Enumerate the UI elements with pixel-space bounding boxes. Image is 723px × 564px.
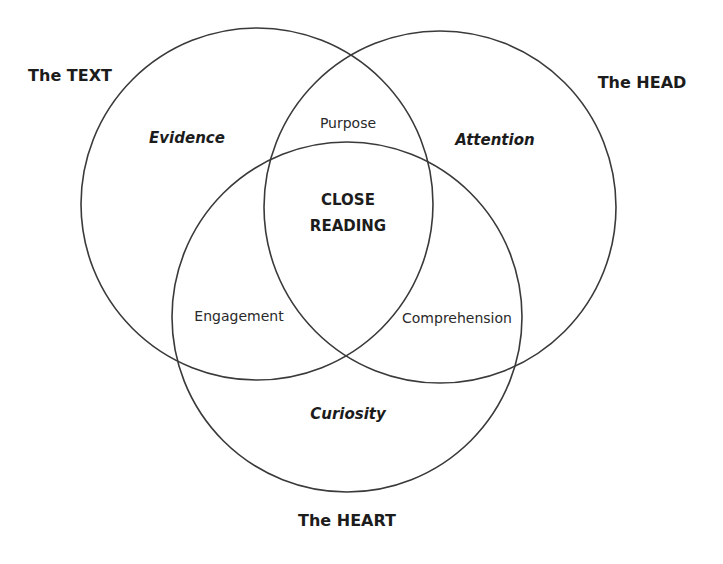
- venn-diagram: The TEXT The HEAD The HEART Evidence Att…: [0, 0, 723, 564]
- trait-evidence: Evidence: [149, 129, 225, 147]
- circle-head: [264, 31, 616, 383]
- set-label-heart: The HEART: [298, 511, 396, 530]
- overlap-comprehension: Comprehension: [402, 310, 512, 326]
- set-label-head: The HEAD: [598, 73, 687, 92]
- trait-curiosity: Curiosity: [310, 405, 387, 423]
- trait-attention: Attention: [454, 131, 534, 149]
- center-label-line1: CLOSE: [321, 191, 375, 209]
- overlap-engagement: Engagement: [194, 308, 284, 324]
- center-label-line2: READING: [310, 217, 386, 235]
- circle-text: [81, 28, 433, 380]
- set-label-text: The TEXT: [28, 66, 112, 85]
- overlap-purpose: Purpose: [320, 115, 376, 131]
